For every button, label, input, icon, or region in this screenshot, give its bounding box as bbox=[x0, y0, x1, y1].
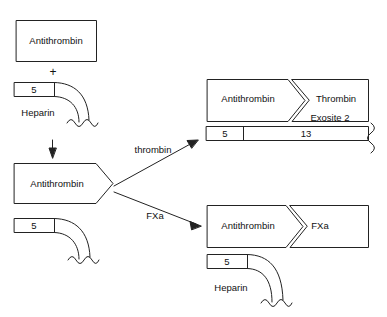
reaction-down-arrow-head bbox=[49, 148, 56, 158]
thrombin-complex-antithrombin-label: Antithrombin bbox=[221, 94, 274, 104]
diagram-vector-layer bbox=[0, 0, 387, 317]
heparin-reactant-chain-inner bbox=[55, 97, 80, 123]
thrombin-complex-heparin-segment-13-label: 13 bbox=[301, 129, 312, 139]
fxa-complex-heparin-chain-inner bbox=[248, 269, 273, 303]
complex-heparin-segment-label: 5 bbox=[31, 221, 36, 231]
heparin-reactant-chain-outer bbox=[55, 83, 90, 121]
thrombin-complex-exosite-label: Exosite 2 bbox=[310, 113, 349, 123]
fxa-complex-protease-label: FXa bbox=[311, 221, 328, 231]
complex-heparin-chain-inner bbox=[55, 233, 80, 260]
fxa-complex-antithrombin-label: Antithrombin bbox=[221, 221, 274, 231]
heparin-reactant-name-label: Heparin bbox=[21, 108, 54, 118]
heparin-reactant-wavy-tail bbox=[67, 120, 98, 127]
fxa-branch-arrow-head bbox=[190, 222, 201, 230]
antithrombin-reactant-label: Antithrombin bbox=[29, 36, 82, 46]
diagram-canvas: Antithrombin + 5 Heparin Antithrombin 5 … bbox=[0, 0, 387, 317]
plus-sign: + bbox=[49, 66, 56, 78]
complex-heparin-wavy-tail bbox=[68, 257, 99, 264]
fxa-branch-arrow-label: FXa bbox=[146, 211, 163, 221]
fxa-complex-wavy-tail bbox=[261, 300, 292, 307]
thrombin-branch-arrow-head bbox=[187, 140, 198, 148]
thrombin-complex-protease-label: Thrombin bbox=[316, 94, 356, 104]
fxa-complex-heparin-segment-label: 5 bbox=[224, 257, 229, 267]
heparin-reactant-segment-label: 5 bbox=[31, 85, 36, 95]
thrombin-complex-heparin-segment-5-label: 5 bbox=[222, 129, 227, 139]
antithrombin-complex-label: Antithrombin bbox=[30, 179, 83, 189]
complex-heparin-chain-outer bbox=[55, 219, 91, 258]
thrombin-complex-heparin-bar bbox=[207, 127, 369, 141]
fxa-complex-heparin-name-label: Heparin bbox=[214, 283, 247, 293]
thrombin-branch-arrow-label: thrombin bbox=[135, 145, 172, 155]
